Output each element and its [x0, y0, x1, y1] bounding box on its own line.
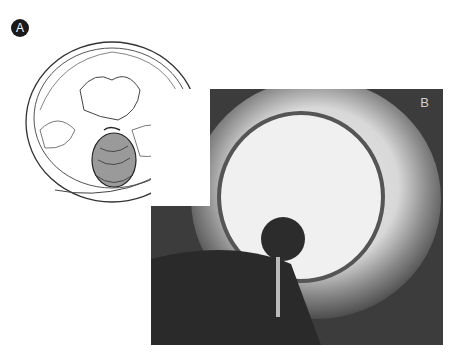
panel-overlap-notch	[151, 89, 210, 206]
panel-label-b: B	[418, 95, 431, 110]
panel-label-a: A	[11, 19, 29, 37]
panel-b-photograph: B	[151, 89, 443, 345]
